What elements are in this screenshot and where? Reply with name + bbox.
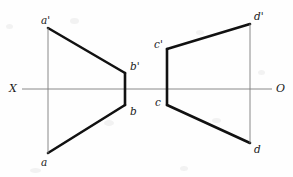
axis-label-o: O — [276, 83, 285, 94]
axis-label-x: X — [9, 83, 17, 94]
projection-figure: X O a' a b' b c' c d' d — [0, 0, 293, 177]
vertex-label-d: d — [254, 144, 261, 155]
figure-canvas — [0, 0, 293, 177]
vertex-label-b: b — [130, 106, 137, 117]
line-segments-group — [48, 24, 250, 153]
vertex-label-c: c — [155, 97, 161, 108]
segment-a-prime-to-b-prime — [48, 28, 125, 73]
vertex-label-a: a — [41, 157, 47, 168]
vertex-label-d-prime: d' — [254, 11, 264, 22]
segment-a-to-b — [48, 105, 125, 153]
vertex-label-a-prime: a' — [41, 15, 50, 26]
segment-c-to-d — [167, 105, 250, 143]
vertex-label-c-prime: c' — [154, 39, 163, 50]
segment-c-prime-to-d-prime — [167, 24, 250, 49]
vertex-label-b-prime: b' — [130, 61, 140, 72]
